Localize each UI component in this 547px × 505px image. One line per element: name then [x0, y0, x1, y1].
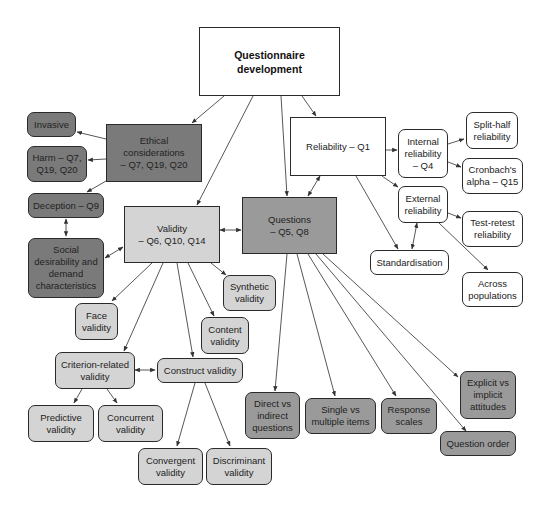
node-split-half-reliability: Split-half reliability [466, 112, 518, 149]
node-reliability: Reliability – Q1 [290, 117, 386, 176]
node-label: Response scales [388, 404, 431, 428]
node-across-populations: Across populations [462, 272, 523, 307]
node-label: Synthetic validity [230, 281, 269, 305]
node-external-reliability: External reliability [398, 186, 448, 223]
node-convergent-validity: Convergent validity [138, 448, 203, 485]
node-questions: Questions – Q5, Q8 [242, 197, 337, 254]
node-label: Questionnaire development [234, 48, 305, 76]
node-content-validity: Content validity [201, 317, 249, 354]
node-questionnaire-development: Questionnaire development [199, 27, 340, 96]
node-label: Deception – Q9 [33, 200, 99, 212]
node-label: Direct vs indirect questions [252, 398, 293, 434]
node-label: Face validity [82, 310, 111, 334]
node-label: External reliability [405, 193, 442, 217]
node-label: Questions – Q5, Q8 [268, 214, 311, 238]
node-discriminant-validity: Discriminant validity [206, 448, 272, 485]
node-label: Convergent validity [146, 455, 195, 479]
node-label: Question order [447, 438, 510, 450]
node-synthetic-validity: Synthetic validity [223, 275, 276, 311]
node-label: Standardisation [376, 257, 442, 269]
node-label: Reliability – Q1 [306, 141, 370, 153]
node-label: Concurrent validity [107, 412, 154, 436]
node-label: Internal reliability – Q4 [405, 136, 442, 172]
node-label: Single vs multiple items [311, 404, 369, 428]
node-label: Split-half reliability [474, 119, 511, 143]
node-label: Cronbach's alpha – Q15 [467, 164, 519, 188]
node-explicit-vs-implicit: Explicit vs implicit attitudes [460, 371, 516, 419]
node-label: Predictive validity [40, 412, 82, 436]
node-label: Ethical considerations – Q7, Q19, Q20 [120, 135, 187, 171]
node-single-vs-multiple: Single vs multiple items [305, 398, 376, 434]
node-label: Invasive [34, 119, 69, 131]
node-concurrent-validity: Concurrent validity [98, 405, 163, 442]
node-predictive-validity: Predictive validity [28, 405, 94, 442]
node-invasive: Invasive [27, 112, 76, 137]
node-label: Test-retest reliability [470, 217, 514, 241]
node-validity: Validity – Q6, Q10, Q14 [124, 206, 220, 263]
node-label: Across populations [468, 278, 517, 302]
node-social-desirability: Social desirability and demand character… [28, 238, 104, 298]
node-deception: Deception – Q9 [28, 193, 104, 218]
node-cronbachs-alpha: Cronbach's alpha – Q15 [462, 158, 523, 194]
node-label: Harm – Q7, Q19, Q20 [32, 152, 81, 176]
node-harm: Harm – Q7, Q19, Q20 [27, 146, 87, 182]
node-label: Criterion-related validity [61, 359, 129, 383]
questionnaire-concept-map: Questionnaire development Ethical consid… [0, 0, 547, 505]
node-test-retest-reliability: Test-retest reliability [462, 211, 523, 247]
node-construct-validity: Construct validity [157, 358, 243, 383]
node-criterion-related-validity: Criterion-related validity [55, 352, 135, 389]
node-label: Explicit vs implicit attitudes [467, 377, 509, 413]
node-standardisation: Standardisation [370, 250, 449, 275]
node-label: Construct validity [164, 365, 236, 377]
node-label: Social desirability and demand character… [34, 244, 97, 292]
node-label: Content validity [208, 324, 241, 348]
node-label: Discriminant validity [213, 455, 265, 479]
node-internal-reliability: Internal reliability – Q4 [398, 129, 448, 178]
node-response-scales: Response scales [381, 398, 437, 434]
node-direct-vs-indirect: Direct vs indirect questions [245, 392, 300, 439]
node-label: Validity – Q6, Q10, Q14 [138, 223, 205, 247]
node-ethical-considerations: Ethical considerations – Q7, Q19, Q20 [106, 124, 202, 182]
node-question-order: Question order [440, 431, 516, 456]
node-face-validity: Face validity [75, 303, 118, 340]
